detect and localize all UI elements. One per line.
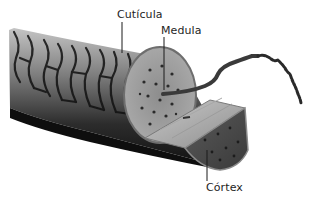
hair-structure-diagram: Cutícula Medula Córtex <box>0 0 317 199</box>
hair-strand-illustration <box>0 0 317 199</box>
cuticula-label: Cutícula <box>117 9 163 21</box>
cortex-label: Córtex <box>206 182 243 194</box>
medula-label: Medula <box>161 25 202 37</box>
